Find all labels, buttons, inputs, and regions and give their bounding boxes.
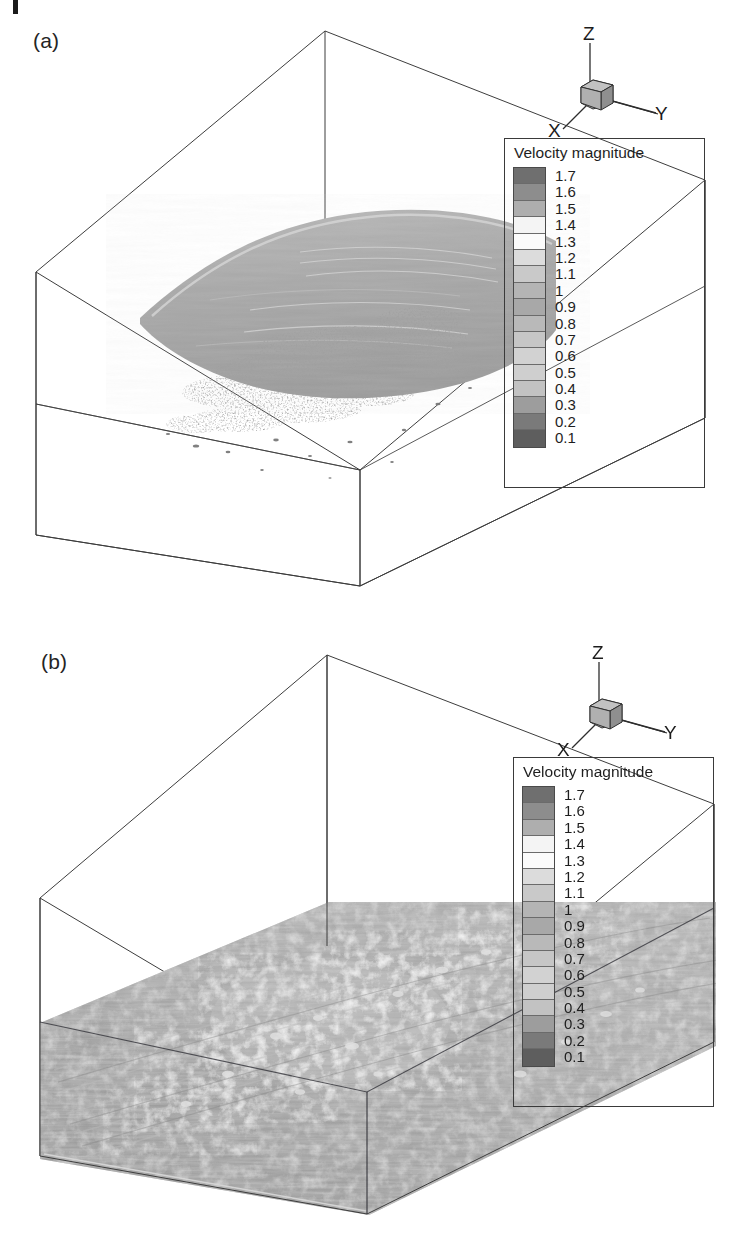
colorbar-band: [514, 348, 545, 364]
colorbar-tick-label: 1.6: [555, 184, 576, 200]
colorbar-band: [523, 902, 554, 918]
legend-title: Velocity magnitude: [523, 763, 653, 781]
colorbar-band: [514, 397, 545, 413]
colorbar-tick-label: 1.3: [555, 234, 576, 250]
panel-a-axis-triad: Z Y X: [525, 25, 675, 145]
colorbar-band: [523, 918, 554, 934]
colorbar-tick-label: 0.1: [555, 430, 576, 446]
panel-a-legend: Velocity magnitude 1.71.61.51.41.31.21.1…: [504, 138, 705, 488]
legend-title: Velocity magnitude: [514, 144, 644, 162]
colorbar-tick-label: 0.8: [564, 935, 585, 951]
colorbar-band: [514, 332, 545, 348]
colorbar-tick-label: 1.6: [564, 803, 585, 819]
colorbar-tick-label: 0.5: [564, 984, 585, 1000]
colorbar-tick-label: 1.3: [564, 853, 585, 869]
colorbar-band: [523, 1000, 554, 1016]
colorbar-band: [514, 217, 545, 233]
colorbar-band: [523, 1033, 554, 1049]
colorbar-labels: 1.71.61.51.41.31.21.110.90.80.70.60.50.4…: [555, 167, 576, 447]
panel-a: (a): [0, 0, 737, 622]
colorbar-tick-label: 1.7: [555, 168, 576, 184]
colorbar-band: [514, 184, 545, 200]
colorbar-tick-label: 0.9: [564, 918, 585, 934]
colorbar-band: [523, 869, 554, 885]
colorbar-band: [514, 365, 545, 381]
colorbar-band: [514, 234, 545, 250]
colorbar-band: [514, 299, 545, 315]
colorbar-band: [514, 414, 545, 430]
colorbar-tick-label: 0.7: [564, 951, 585, 967]
axis-label-y: Y: [655, 103, 668, 125]
colorbar-band: [523, 853, 554, 869]
colorbar-band: [514, 201, 545, 217]
colorbar-tick-label: 0.6: [555, 348, 576, 364]
colorbar-tick-label: 1.1: [564, 885, 585, 901]
colorbar-tick-label: 1.5: [555, 201, 576, 217]
axis-label-z: Z: [583, 23, 595, 45]
axis-label-z: Z: [592, 642, 604, 664]
colorbar-tick-label: 0.4: [555, 381, 576, 397]
axis-label-y: Y: [664, 722, 677, 744]
panel-b-axis-triad: Z Y X: [534, 644, 684, 764]
colorbar-band: [523, 787, 554, 803]
colorbar-tick-label: 1: [564, 902, 585, 918]
colorbar-band: [514, 266, 545, 282]
colorbar-band: [523, 820, 554, 836]
colorbar-band: [514, 250, 545, 266]
colorbar-tick-label: 0.3: [555, 397, 576, 413]
colorbar: [522, 786, 555, 1067]
colorbar-tick-label: 1.5: [564, 820, 585, 836]
axis-label-x: X: [548, 120, 561, 142]
colorbar-band: [514, 316, 545, 332]
colorbar-tick-label: 0.9: [555, 299, 576, 315]
colorbar-band: [523, 951, 554, 967]
colorbar-band: [523, 967, 554, 983]
colorbar-band: [523, 1016, 554, 1032]
colorbar-labels: 1.71.61.51.41.31.21.110.90.80.70.60.50.4…: [564, 786, 585, 1066]
colorbar-tick-label: 0.2: [564, 1033, 585, 1049]
colorbar-band: [523, 803, 554, 819]
colorbar-tick-label: 1.4: [564, 836, 585, 852]
colorbar-tick-label: 0.1: [564, 1049, 585, 1065]
colorbar-tick-label: 0.5: [555, 365, 576, 381]
axis-label-x: X: [557, 739, 570, 761]
colorbar-band: [514, 283, 545, 299]
colorbar-band: [523, 836, 554, 852]
panel-b-legend: Velocity magnitude 1.71.61.51.41.31.21.1…: [513, 757, 714, 1107]
colorbar-tick-label: 0.7: [555, 332, 576, 348]
colorbar-tick-label: 1: [555, 283, 576, 299]
colorbar-band: [523, 935, 554, 951]
colorbar-band: [514, 168, 545, 184]
colorbar-band: [514, 430, 545, 446]
colorbar-tick-label: 1.2: [555, 250, 576, 266]
colorbar-band: [514, 381, 545, 397]
colorbar-tick-label: 0.6: [564, 967, 585, 983]
colorbar: [513, 167, 546, 448]
colorbar-tick-label: 1.4: [555, 217, 576, 233]
colorbar-band: [523, 984, 554, 1000]
colorbar-tick-label: 1.1: [555, 266, 576, 282]
colorbar-tick-label: 1.7: [564, 787, 585, 803]
colorbar-band: [523, 885, 554, 901]
figure-root: (a): [0, 0, 737, 1244]
colorbar-tick-label: 0.4: [564, 1000, 585, 1016]
panel-b: (b): [0, 622, 737, 1244]
colorbar-tick-label: 1.2: [564, 869, 585, 885]
colorbar-tick-label: 0.2: [555, 414, 576, 430]
colorbar-tick-label: 0.3: [564, 1016, 585, 1032]
colorbar-band: [523, 1049, 554, 1065]
colorbar-tick-label: 0.8: [555, 316, 576, 332]
